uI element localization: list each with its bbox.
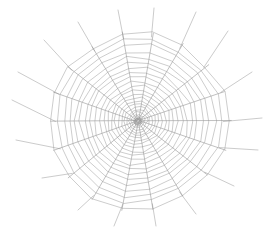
anchor-line bbox=[221, 72, 252, 92]
anchor-line bbox=[78, 196, 93, 210]
anchor-line bbox=[179, 192, 196, 214]
anchor-line bbox=[114, 204, 123, 226]
anchor-line bbox=[152, 204, 156, 226]
anchor-line bbox=[44, 40, 72, 70]
radial-spoke bbox=[53, 92, 135, 121]
anchor-line bbox=[205, 172, 234, 186]
anchor-line bbox=[12, 100, 55, 121]
spider-web-figure bbox=[0, 0, 273, 233]
anchor-line bbox=[204, 31, 228, 67]
spider-web-canvas bbox=[0, 0, 273, 233]
radial-spoke bbox=[139, 65, 208, 120]
anchor-line bbox=[219, 148, 258, 150]
anchor-line bbox=[180, 12, 196, 48]
anchor-line bbox=[42, 173, 72, 178]
radial-spoke bbox=[139, 123, 153, 209]
anchor-line bbox=[18, 72, 59, 94]
